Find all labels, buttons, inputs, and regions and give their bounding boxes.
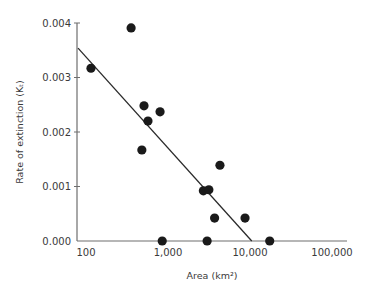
regression-line-segment xyxy=(78,48,252,241)
data-point xyxy=(204,185,213,194)
data-points xyxy=(86,23,274,245)
data-point xyxy=(203,236,212,245)
x-tick-label: 100 xyxy=(76,247,95,258)
data-point xyxy=(143,117,152,126)
data-point xyxy=(137,145,146,154)
data-point xyxy=(210,214,219,223)
scatter-chart: 0.0000.0010.0020.0030.004 1001,00010,000… xyxy=(0,0,373,298)
data-point xyxy=(158,236,167,245)
y-tick-label: 0.004 xyxy=(42,18,71,29)
y-tick-label: 0.000 xyxy=(42,236,71,247)
x-axis-title: Area (km²) xyxy=(187,270,238,281)
regression-line xyxy=(78,48,252,241)
y-axis-title: Rate of extinction (Kₜ) xyxy=(14,80,25,184)
data-point xyxy=(265,236,274,245)
data-point xyxy=(86,64,95,73)
axes xyxy=(77,23,347,241)
data-point xyxy=(127,23,136,32)
x-axis-ticks: 1001,00010,000100,000 xyxy=(76,247,352,258)
y-tick-label: 0.003 xyxy=(42,72,71,83)
y-tick-label: 0.001 xyxy=(42,181,71,192)
x-tick-label: 100,000 xyxy=(311,247,352,258)
data-point xyxy=(240,214,249,223)
x-tick-label: 10,000 xyxy=(233,247,268,258)
x-tick-label: 1,000 xyxy=(154,247,183,258)
y-tick-label: 0.002 xyxy=(42,127,71,138)
data-point xyxy=(155,107,164,116)
y-axis-ticks: 0.0000.0010.0020.0030.004 xyxy=(42,18,80,247)
data-point xyxy=(139,101,148,110)
data-point xyxy=(215,161,224,170)
